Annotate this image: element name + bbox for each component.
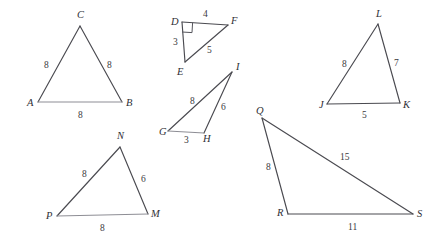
edge-j-l: [327, 24, 378, 104]
side-label-ac: 8: [44, 60, 49, 70]
side-label-jl: 8: [342, 59, 347, 69]
side-label-lk: 7: [394, 58, 399, 68]
edge-g-h: [168, 131, 204, 133]
triangle-qrs: Q R S 8 15 11: [256, 105, 423, 232]
vertex-label-i: I: [235, 61, 240, 72]
vertex-label-l: L: [375, 8, 382, 19]
edge-d-f: [182, 22, 228, 25]
edge-d-e: [182, 22, 185, 62]
vertex-label-j: J: [319, 99, 325, 110]
side-label-qr: 8: [266, 162, 271, 172]
vertex-label-s: S: [417, 208, 423, 219]
side-label-de: 3: [173, 37, 178, 47]
side-label-rs: 11: [348, 222, 357, 232]
vertex-label-r: R: [276, 207, 284, 218]
vertex-label-d: D: [170, 16, 179, 27]
vertex-label-k: K: [402, 99, 411, 110]
side-label-hi: 6: [221, 102, 226, 112]
edge-p-m: [57, 214, 148, 216]
triangle-def: D E F 4 3 5: [170, 9, 238, 77]
vertex-label-a: A: [26, 97, 34, 108]
vertex-label-h: H: [202, 133, 212, 144]
side-label-gh: 3: [184, 135, 189, 145]
side-label-pn: 8: [82, 169, 87, 179]
edge-e-f: [185, 25, 228, 62]
side-label-df: 4: [203, 9, 208, 19]
edge-j-k: [327, 103, 400, 104]
side-label-cb: 8: [107, 60, 112, 70]
triangle-ghi: G H I 8 6 3: [159, 61, 240, 145]
vertex-label-e: E: [176, 66, 184, 77]
side-label-nm: 6: [141, 174, 146, 184]
vertex-label-f: F: [230, 15, 238, 26]
right-angle-icon: [182, 23, 193, 33]
vertex-label-b: B: [126, 97, 133, 108]
side-label-gi: 8: [190, 96, 195, 106]
edge-p-n: [57, 147, 120, 216]
vertex-label-p: P: [45, 210, 53, 221]
edge-c-b: [80, 26, 122, 102]
triangle-abc: A B C 8 8 8: [26, 9, 133, 120]
geometry-figure-canvas: A B C 8 8 8 D E F 4 3 5 G H I 8 6 3 J K: [0, 0, 440, 242]
side-label-pm: 8: [100, 223, 105, 233]
edge-h-i: [204, 72, 232, 133]
side-label-ab: 8: [78, 110, 83, 120]
triangle-mnp: N M P 8 6 8: [45, 130, 161, 233]
side-label-ef: 5: [207, 45, 212, 55]
vertex-label-m: M: [150, 208, 161, 219]
vertex-label-q: Q: [256, 105, 264, 116]
vertex-label-n: N: [116, 130, 125, 141]
side-label-qs: 15: [340, 152, 350, 162]
vertex-label-c: C: [77, 9, 85, 20]
side-label-jk: 5: [362, 110, 367, 120]
triangle-jkl: J K L 8 7 5: [319, 8, 411, 120]
vertex-label-g: G: [159, 126, 167, 137]
